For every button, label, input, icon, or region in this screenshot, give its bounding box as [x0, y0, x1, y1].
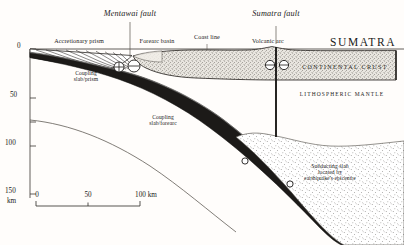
scale-tick-100: 100 km [135, 192, 157, 200]
annotation-coupling-slab-prism: Coupling slab/prism [74, 71, 98, 83]
fault-label-mentawai: Mentawai fault [104, 10, 157, 19]
annotation-line: slab/forearc [149, 121, 177, 127]
layer-label-continental-crust: CONTINENTAL CRUST [302, 64, 388, 70]
annotation-coupling-slab-forearc: Coupling slab/forearc [149, 115, 177, 127]
epicentre-marker-2 [287, 181, 293, 187]
depth-tick-0: 0 [17, 43, 21, 51]
depth-axis-unit: km [7, 198, 16, 206]
surface-label-volcanic-arc: Volcanic arc [252, 38, 284, 45]
depth-tick-150: 150 [5, 188, 16, 196]
scale-tick-50: 50 [84, 192, 91, 200]
region-label-sumatra: SUMATRA [330, 36, 396, 48]
depth-tick-100: 100 [5, 140, 16, 148]
annotation-subducting-slab: Subducting slab located by earthquake's … [304, 164, 356, 182]
scale-bar [36, 201, 140, 206]
fault-symbol-sumatra-right [279, 60, 288, 69]
fault-label-sumatra: Sumatra fault [252, 10, 299, 19]
annotation-line: slab/prism [74, 77, 98, 83]
depth-tick-marks [30, 49, 36, 194]
fault-symbol-sumatra-left [265, 60, 274, 69]
fault-symbol-mentawai-plus [114, 62, 124, 72]
surface-label-forearc-basin: Forearc basin [140, 38, 175, 45]
lithosphere-base-curve [30, 120, 236, 232]
surface-label-coast-line: Coast line [194, 34, 220, 41]
epicentre-marker-1 [242, 158, 248, 164]
annotation-line: earthquake's epicentre [304, 176, 356, 182]
figure-canvas: Mentawai fault Sumatra fault Accretionar… [0, 0, 404, 245]
scale-tick-0: 0 [35, 192, 39, 200]
surface-label-accretionary-prism: Accretionary prism [54, 38, 104, 45]
depth-tick-50: 50 [10, 92, 17, 100]
fault-symbol-mentawai-minus [128, 60, 140, 72]
layer-label-lithospheric-mantle: LITHOSPHERIC MANTLE [300, 92, 384, 98]
